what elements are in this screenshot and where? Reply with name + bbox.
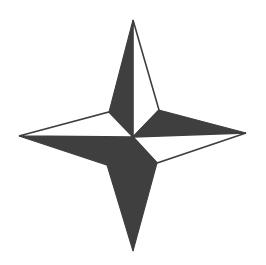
figure-canvas: Four-Pointed Compass Star A four-pointed… <box>0 0 266 265</box>
compass-star-graphic: Four-Pointed Compass Star A four-pointed… <box>0 0 266 265</box>
